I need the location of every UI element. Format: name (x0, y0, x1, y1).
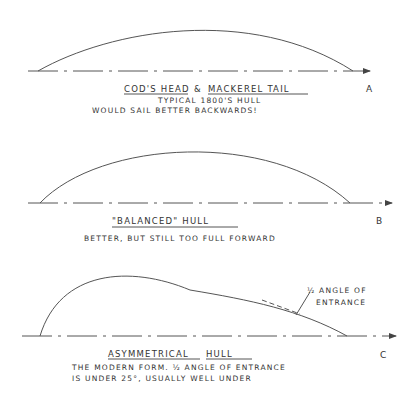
diagram-b: B "BALANCED" HULL BETTER, BUT STILL TOO … (28, 152, 392, 243)
caption-a-line1: TYPICAL 1800'S HULL (157, 96, 261, 105)
caption-b-line1: BETTER, BUT STILL TOO FULL FORWARD (84, 234, 276, 243)
caption-c-line1: THE MODERN FORM. ½ ANGLE OF ENTRANCE (71, 363, 286, 372)
diagram-c: ½ ANGLE OF ENTRANCE C ASYMMETRICAL HULL … (22, 276, 396, 383)
caption-a-line2: WOULD SAIL BETTER BACKWARDS! (92, 106, 258, 115)
label-c: C (380, 350, 387, 360)
callout-leader (296, 292, 310, 315)
hull-diagrams: A COD'S HEAD & MACKEREL TAIL TYPICAL 180… (0, 0, 418, 400)
callout-line1: ½ ANGLE OF (307, 286, 367, 295)
title-b: "BALANCED" HULL (112, 216, 209, 226)
callout-line2: ENTRANCE (316, 298, 366, 307)
label-a: A (366, 84, 373, 94)
title-c-part2: HULL (206, 349, 233, 359)
title-a-part2: MACKEREL TAIL (208, 84, 290, 94)
caption-c-line2: IS UNDER 25°, USUALLY WELL UNDER (72, 374, 252, 383)
title-a-part1: COD'S HEAD (124, 84, 190, 94)
hull-profile-b (40, 152, 350, 203)
label-b: B (376, 216, 383, 226)
entrance-angle-tangent (262, 300, 300, 314)
title-c-part1: ASYMMETRICAL (108, 349, 189, 359)
title-a-joiner: & (194, 84, 202, 94)
hull-profile-a (38, 30, 353, 71)
diagram-a: A COD'S HEAD & MACKEREL TAIL TYPICAL 180… (28, 30, 373, 115)
